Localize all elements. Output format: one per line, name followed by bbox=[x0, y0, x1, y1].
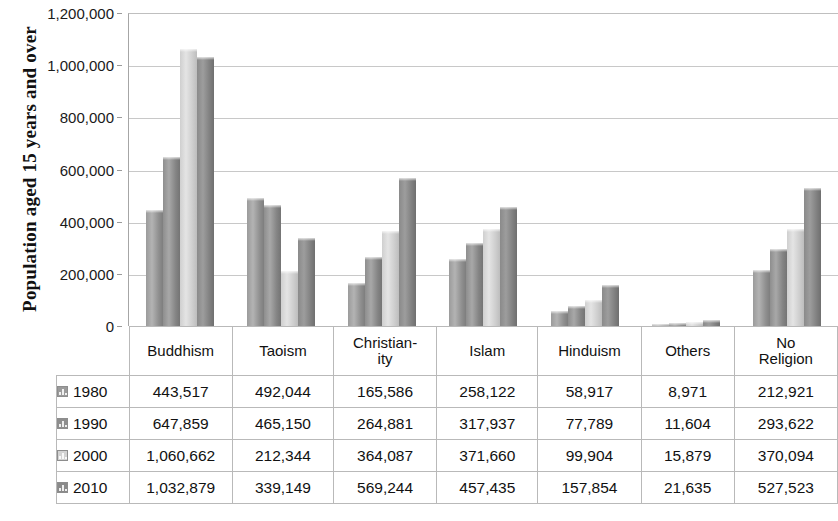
y-axis-tick-label: 400,000 bbox=[60, 213, 114, 230]
table-value-cell: 457,435 bbox=[437, 472, 538, 504]
table-value-cell: 258,122 bbox=[437, 376, 538, 408]
table-value-cell: 1,060,662 bbox=[129, 440, 232, 472]
table-value-cell: 212,921 bbox=[734, 376, 837, 408]
table-value-cell: 264,881 bbox=[334, 408, 437, 440]
y-axis-tick-mark bbox=[117, 117, 122, 118]
bar-2010 bbox=[298, 238, 315, 326]
bar-1980 bbox=[348, 283, 365, 326]
table-corner-cell bbox=[57, 327, 130, 376]
bar-1990 bbox=[163, 157, 180, 326]
series-year-label: 1980 bbox=[73, 383, 107, 401]
category-header-cell: Taoism bbox=[232, 327, 333, 376]
category-header-cell: Christian-ity bbox=[334, 327, 437, 376]
bar-2000 bbox=[787, 229, 804, 326]
y-axis-tick-labels: 0200,000400,000600,000800,0001,000,0001,… bbox=[0, 13, 122, 326]
bar-1980 bbox=[753, 270, 770, 326]
table-value-cell: 317,937 bbox=[437, 408, 538, 440]
table-row: 1980443,517492,044165,586258,12258,9178,… bbox=[57, 376, 838, 408]
table-row: 20001,060,662212,344364,087371,66099,904… bbox=[57, 440, 838, 472]
series-year-label: 2010 bbox=[73, 479, 107, 497]
bar-1990 bbox=[770, 249, 787, 326]
plot-area bbox=[128, 13, 838, 326]
table-value-cell: 371,660 bbox=[437, 440, 538, 472]
legend-row-header: 1990 bbox=[57, 408, 130, 440]
bar-2000 bbox=[180, 49, 197, 326]
bar-1980 bbox=[146, 210, 163, 326]
bar-2010 bbox=[804, 188, 821, 326]
bar-1990 bbox=[568, 306, 585, 326]
bar-2000 bbox=[281, 271, 298, 326]
legend-row-header: 1980 bbox=[57, 376, 130, 408]
table-value-cell: 8,971 bbox=[641, 376, 734, 408]
category-header-cell: Islam bbox=[437, 327, 538, 376]
bar-group bbox=[129, 14, 230, 326]
bar-1980 bbox=[449, 259, 466, 326]
table-value-cell: 339,149 bbox=[232, 472, 333, 504]
y-axis-tick-label: 600,000 bbox=[60, 161, 114, 178]
table-value-cell: 58,917 bbox=[538, 376, 641, 408]
legend-row-header: 2010 bbox=[57, 472, 130, 504]
bar-1980 bbox=[247, 198, 264, 326]
series-color-swatch-icon bbox=[57, 418, 68, 429]
bar-2000 bbox=[382, 231, 399, 326]
y-axis-tick-label: 1,000,000 bbox=[47, 57, 114, 74]
category-header-cell: NoReligion bbox=[734, 327, 837, 376]
table-value-cell: 443,517 bbox=[129, 376, 232, 408]
y-axis-tick-mark bbox=[117, 13, 122, 14]
table-row: 1990647,859465,150264,881317,93777,78911… bbox=[57, 408, 838, 440]
table-value-cell: 157,854 bbox=[538, 472, 641, 504]
table-value-cell: 370,094 bbox=[734, 440, 837, 472]
bar-1990 bbox=[466, 243, 483, 326]
series-year-label: 1990 bbox=[73, 415, 107, 433]
bar-2010 bbox=[399, 178, 416, 326]
bar-2000 bbox=[483, 229, 500, 326]
category-header-cell: Others bbox=[641, 327, 734, 376]
y-axis-tick-label: 1,200,000 bbox=[47, 5, 114, 22]
bar-group bbox=[737, 14, 838, 326]
table-category-row: BuddhismTaoismChristian-ityIslamHinduism… bbox=[57, 327, 838, 376]
bar-group bbox=[635, 14, 736, 326]
bar-2000 bbox=[585, 300, 602, 326]
table-value-cell: 99,904 bbox=[538, 440, 641, 472]
bar-2010 bbox=[602, 285, 619, 326]
table-value-cell: 77,789 bbox=[538, 408, 641, 440]
table-value-cell: 527,523 bbox=[734, 472, 837, 504]
chart-figure: Population aged 15 years and over 0200,0… bbox=[0, 0, 838, 521]
bar-1990 bbox=[365, 257, 382, 326]
bar-group bbox=[230, 14, 331, 326]
bar-group bbox=[534, 14, 635, 326]
table-value-cell: 212,344 bbox=[232, 440, 333, 472]
y-axis-tick-mark bbox=[117, 274, 122, 275]
table-value-cell: 21,635 bbox=[641, 472, 734, 504]
table-row: 20101,032,879339,149569,244457,435157,85… bbox=[57, 472, 838, 504]
table-value-cell: 492,044 bbox=[232, 376, 333, 408]
table-value-cell: 569,244 bbox=[334, 472, 437, 504]
bar-1990 bbox=[264, 205, 281, 326]
table-value-cell: 364,087 bbox=[334, 440, 437, 472]
y-axis-tick-label: 800,000 bbox=[60, 109, 114, 126]
y-axis-tick-mark bbox=[117, 65, 122, 66]
table-value-cell: 11,604 bbox=[641, 408, 734, 440]
table-value-cell: 293,622 bbox=[734, 408, 837, 440]
bar-2010 bbox=[500, 207, 517, 326]
y-axis-tick-label: 200,000 bbox=[60, 265, 114, 282]
category-header-cell: Hinduism bbox=[538, 327, 641, 376]
series-color-swatch-icon bbox=[57, 450, 68, 461]
legend-row-header: 2000 bbox=[57, 440, 130, 472]
table-value-cell: 647,859 bbox=[129, 408, 232, 440]
bar-2010 bbox=[197, 57, 214, 326]
y-axis-tick-mark bbox=[117, 170, 122, 171]
bar-group bbox=[332, 14, 433, 326]
bar-group bbox=[433, 14, 534, 326]
series-year-label: 2000 bbox=[73, 447, 107, 465]
table-value-cell: 1,032,879 bbox=[129, 472, 232, 504]
plot-frame bbox=[128, 13, 838, 326]
table-value-cell: 465,150 bbox=[232, 408, 333, 440]
table-value-cell: 15,879 bbox=[641, 440, 734, 472]
data-table-body: BuddhismTaoismChristian-ityIslamHinduism… bbox=[57, 327, 838, 504]
series-color-swatch-icon bbox=[57, 482, 68, 493]
y-axis-tick-mark bbox=[117, 222, 122, 223]
series-color-swatch-icon bbox=[57, 386, 68, 397]
data-table: BuddhismTaoismChristian-ityIslamHinduism… bbox=[56, 326, 838, 504]
category-header-cell: Buddhism bbox=[129, 327, 232, 376]
